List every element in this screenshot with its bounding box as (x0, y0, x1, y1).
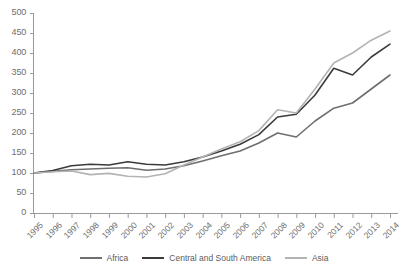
y-tick-label: 50 (2, 187, 26, 197)
legend-label: Africa (107, 254, 129, 263)
y-tick-label: 250 (2, 107, 26, 117)
series-lines (34, 31, 390, 177)
legend-swatch-icon (142, 257, 164, 259)
legend-item[interactable]: Central and South America (142, 254, 271, 263)
y-tick-label: 150 (2, 147, 26, 157)
axis-lines (34, 13, 399, 214)
legend-label: Central and South America (169, 254, 271, 263)
legend-item[interactable]: Asia (285, 254, 329, 263)
y-tick-label: 450 (2, 27, 26, 37)
y-tick-label: 500 (2, 7, 26, 17)
y-tick-label: 0 (2, 207, 26, 217)
series-line (34, 75, 390, 173)
legend-swatch-icon (80, 257, 102, 259)
y-tick-label: 350 (2, 67, 26, 77)
legend-swatch-icon (285, 257, 307, 259)
x-axis-ticks (35, 214, 391, 218)
y-tick-label: 400 (2, 47, 26, 57)
y-tick-label: 100 (2, 167, 26, 177)
legend-item[interactable]: Africa (80, 254, 129, 263)
legend-label: Asia (312, 254, 329, 263)
series-line (34, 31, 390, 177)
y-tick-label: 300 (2, 87, 26, 97)
y-tick-label: 200 (2, 127, 26, 137)
line-chart: 050100150200250300350400450500 199519961… (0, 0, 408, 276)
chart-legend: AfricaCentral and South AmericaAsia (0, 254, 408, 263)
